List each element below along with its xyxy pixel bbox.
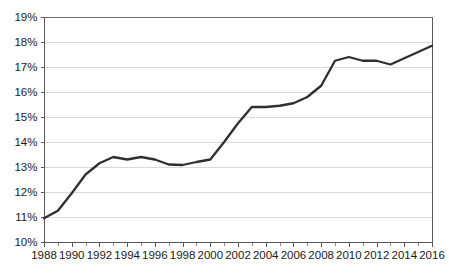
x-axis-label-2004: 2004 bbox=[253, 249, 279, 261]
y-axis-label-10: 10% bbox=[14, 236, 37, 248]
x-axis-label-2014: 2014 bbox=[391, 249, 417, 261]
x-axis-label-1998: 1998 bbox=[170, 249, 196, 261]
x-axis-label-2012: 2012 bbox=[364, 249, 390, 261]
x-axis-label-1992: 1992 bbox=[87, 249, 113, 261]
x-axis-labels: 1988199019921994199619982000200220042006… bbox=[31, 249, 445, 261]
line-chart: 19%18%17%16%15%14%13%12%11%10% 198819901… bbox=[0, 0, 449, 275]
x-axis-label-2016: 2016 bbox=[419, 249, 445, 261]
y-axis-label-11: 11% bbox=[15, 211, 37, 223]
y-axis-label-12: 12% bbox=[14, 186, 37, 198]
y-axis-label-14: 14% bbox=[14, 136, 37, 148]
x-axis-label-2008: 2008 bbox=[308, 249, 334, 261]
y-axis-label-18: 18% bbox=[14, 36, 37, 48]
y-axis-label-17: 17% bbox=[14, 61, 37, 73]
x-axis-label-1990: 1990 bbox=[59, 249, 85, 261]
x-axis-label-2000: 2000 bbox=[197, 249, 223, 261]
y-axis-label-19: 19% bbox=[14, 11, 37, 23]
chart-background bbox=[0, 0, 449, 275]
y-axis-label-15: 15% bbox=[14, 111, 37, 123]
x-axis-label-1994: 1994 bbox=[114, 249, 140, 261]
x-axis-label-2010: 2010 bbox=[336, 249, 362, 261]
x-axis-label-2006: 2006 bbox=[281, 249, 307, 261]
y-axis-label-16: 16% bbox=[14, 86, 37, 98]
x-axis-label-1988: 1988 bbox=[31, 249, 57, 261]
y-axis-label-13: 13% bbox=[14, 161, 37, 173]
x-axis-label-2002: 2002 bbox=[225, 249, 251, 261]
chart-canvas: 19%18%17%16%15%14%13%12%11%10% 198819901… bbox=[0, 0, 449, 275]
x-axis-label-1996: 1996 bbox=[142, 249, 168, 261]
